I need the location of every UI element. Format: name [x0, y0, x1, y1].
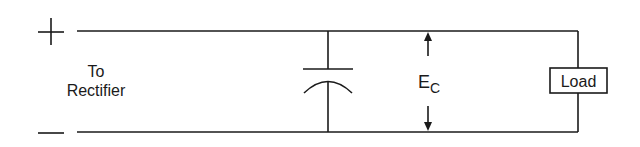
voltage-label: EC	[418, 72, 440, 96]
voltage-label-subscript: C	[430, 80, 440, 96]
voltage-label-main: E	[418, 72, 430, 92]
arrowhead-down-icon	[424, 122, 432, 131]
capacitor-icon	[303, 31, 353, 132]
load-label: Load	[561, 73, 597, 90]
arrowhead-up-icon	[424, 32, 432, 41]
source-label-line2: Rectifier	[67, 82, 126, 99]
source-label-line1: To	[88, 63, 105, 80]
circuit-diagram: Load To Rectifier EC	[0, 0, 640, 147]
positive-terminal-icon	[38, 18, 64, 45]
